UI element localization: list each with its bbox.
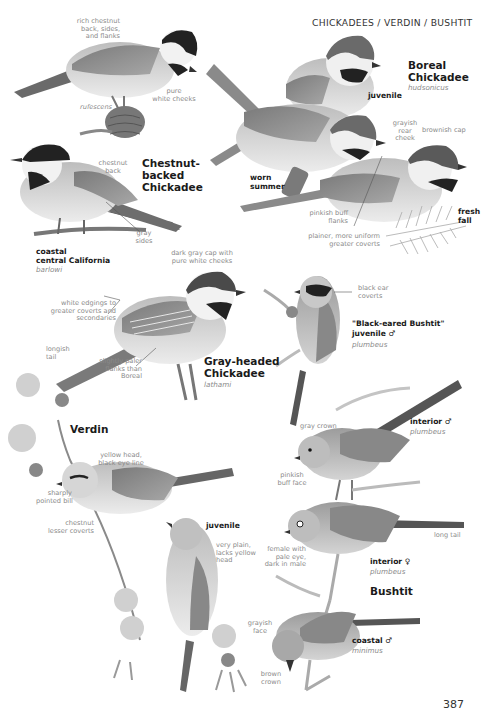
label-interior-female: interior ♀ [370, 558, 410, 567]
note-long-tail: long tail [434, 532, 461, 540]
species-name-chestnut-backed: Chestnut- backed Chickadee [142, 158, 203, 193]
black-eared-bushtit-name: "Black-eared Bushtit" [352, 320, 444, 329]
note-brownish-cap: brownish cap [422, 127, 466, 135]
scientific-plumbeus-interior-male: plumbeus [410, 428, 445, 436]
note-dark-gray-cap: dark gray cap with pure white cheeks [168, 250, 236, 265]
label-boreal-juvenile: juvenile [368, 92, 402, 101]
note-gray-sides: gray sides [132, 230, 156, 245]
note-longish-tail: longish tail [46, 346, 70, 361]
note-chestnut-back: chestnut back [98, 160, 128, 175]
note-grayish-face: grayish face [246, 620, 274, 635]
note-white-edgings: white edgings to greater coverts and sec… [46, 300, 116, 323]
verdin-juvenile-illustration [166, 518, 218, 692]
page-number: 387 [443, 699, 464, 712]
chestnut-backed-chickadee-rufescens-illustration [14, 30, 197, 138]
note-chestnut-back-sides: rich chestnut back, sides, and flanks [70, 18, 120, 41]
scientific-plumbeus-interior-female: plumbeus [370, 568, 405, 576]
note-pure-white-cheeks: pure white cheeks [144, 88, 204, 103]
label-verdin-juvenile: juvenile [206, 522, 240, 531]
label-worn-summer: worn summer [250, 174, 288, 191]
scientific-lathami: lathami [204, 381, 231, 389]
field-guide-page: CHICKADEES / VERDIN / BUSHTIT rich chest… [0, 0, 481, 718]
note-black-ear-coverts: black ear coverts [358, 285, 388, 300]
note-brown-crown: brown crown [256, 671, 286, 686]
note-female-pale-eye: female with pale eye, dark in male [260, 546, 306, 569]
verdin-branch-illustration [8, 373, 246, 692]
note-gray-crown: gray crown [300, 423, 337, 431]
variant-coastal-central-california: coastal central California [36, 248, 110, 265]
note-very-plain: very plain, lacks yellow head [216, 542, 256, 565]
bushtit-coastal-male-illustration [272, 612, 420, 690]
note-yellow-head: yellow head, black eye line [96, 452, 146, 467]
species-name-gray-headed: Gray-headed Chickadee [204, 356, 280, 380]
note-sharply-pointed-bill: sharply pointed bill [36, 490, 72, 505]
label-coastal-male: coastal ♂ [352, 637, 392, 646]
note-plainer-greater-coverts: plainer, more uniform greater coverts [300, 233, 380, 248]
scientific-barlowi: barlowi [36, 266, 62, 274]
species-name-bushtit: Bushtit [370, 586, 413, 598]
label-black-eared-juvenile-male: juvenile ♂ [352, 330, 395, 339]
label-fresh-fall: fresh fall [458, 208, 480, 225]
note-grayish-rear-cheek: grayish rear cheek [390, 120, 420, 143]
scientific-hudsonicus: hudsonicus [408, 84, 449, 92]
note-chestnut-lesser-coverts: chestnut lesser coverts [46, 520, 94, 535]
species-name-boreal: Boreal Chickadee [408, 60, 469, 84]
bushtit-interior-male-illustration [294, 380, 462, 500]
section-title: CHICKADEES / VERDIN / BUSHTIT [312, 18, 473, 29]
scientific-minimus: minimus [352, 647, 383, 655]
scientific-plumbeus-black-eared: plumbeus [352, 341, 387, 349]
black-eared-bushtit-illustration [264, 276, 340, 426]
note-pinkish-buff-flanks: pinkish buff flanks [300, 210, 348, 225]
note-rufescens: rufescens [80, 104, 112, 112]
note-pinkish-buff-face: pinkish buff face [272, 472, 312, 487]
label-interior-male: interior ♂ [410, 418, 452, 427]
verdin-adult-illustration [56, 462, 234, 514]
species-name-verdin: Verdin [70, 424, 108, 436]
note-slightly-paler-flanks: slightly paler flanks than Boreal [92, 358, 142, 381]
